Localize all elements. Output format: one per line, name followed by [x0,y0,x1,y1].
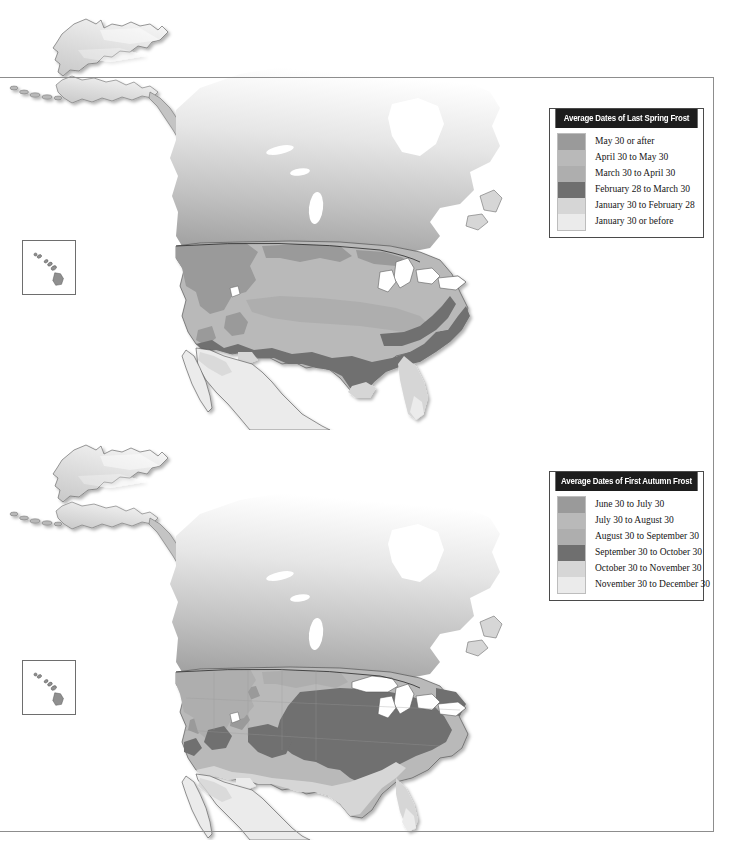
alaska-region [10,445,186,568]
north-america-map-autumn [0,430,548,840]
legend-row: August 30 to September 30 [554,529,699,545]
alaska-region [10,19,186,142]
legend-swatch-nov30-dec30 [558,577,585,593]
legend-swatch-mar30-apr30 [558,166,585,182]
legend-title-autumn: Average Dates of First Autumn Frost [555,472,697,491]
legend-row: May 30 or after [554,134,699,150]
legend-spring-frost: Average Dates of Last Spring Frost May 3… [549,108,704,238]
legend-swatch-jul30-aug30 [558,513,585,529]
legend-label: October 30 to November 30 [595,564,702,574]
legend-row: November 30 to December 30 [554,577,699,593]
legend-label: March 30 to April 30 [595,169,675,179]
legend-swatch-aug30-sep30 [558,529,585,545]
legend-row: October 30 to November 30 [554,561,699,577]
legend-row: March 30 to April 30 [554,166,699,182]
legend-row: September 30 to October 30 [554,545,699,561]
legend-label: February 28 to March 30 [595,185,690,195]
legend-row: April 30 to May 30 [554,150,699,166]
legend-row: February 28 to March 30 [554,182,699,198]
legend-row: June 30 to July 30 [554,497,699,513]
legend-swatch-jan30-or-before [558,214,585,230]
legend-label: September 30 to October 30 [595,548,702,558]
legend-autumn-frost: Average Dates of First Autumn Frost June… [549,471,704,601]
hawaii-inset-box-autumn [22,660,76,715]
legend-swatch-jun30-jul30 [558,497,585,513]
legend-row: January 30 to February 28 [554,198,699,214]
legend-swatch-jan30-feb28 [558,198,585,214]
hawaii-inset-box-spring [22,240,76,295]
legend-swatch-oct30-nov30 [558,561,585,577]
legend-swatch-may30-or-after [558,134,585,150]
legend-label: July 30 to August 30 [595,516,674,526]
legend-label: August 30 to September 30 [595,532,699,542]
legend-label: January 30 or before [595,217,673,227]
legend-row: July 30 to August 30 [554,513,699,529]
legend-label: November 30 to December 30 [595,580,710,590]
legend-title-spring: Average Dates of Last Spring Frost [555,109,697,128]
legend-label: June 30 to July 30 [595,500,664,510]
map-panel-autumn-frost [0,430,548,840]
legend-label: May 30 or after [595,137,654,147]
legend-swatch-feb28-mar30 [558,182,585,198]
north-america-map-spring [0,0,548,430]
legend-swatch-sep30-oct30 [558,545,585,561]
legend-label: April 30 to May 30 [595,153,668,163]
legend-swatch-apr30-may30 [558,150,585,166]
legend-label: January 30 to February 28 [595,201,695,211]
hawaii-inset-map-autumn [23,661,75,714]
hawaii-inset-map-spring [23,241,75,294]
legend-row: January 30 or before [554,214,699,230]
map-panel-spring-frost [0,0,548,430]
